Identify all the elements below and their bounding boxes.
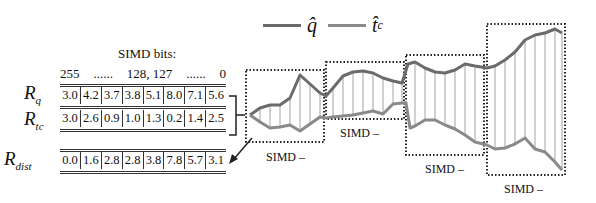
brace-icon — [229, 96, 245, 135]
simd-caption-4: SIMD – — [504, 182, 543, 197]
diagram-graphics — [0, 0, 596, 203]
simd-box-4 — [487, 24, 565, 175]
simd-caption-3: SIMD – — [425, 162, 464, 177]
simd-caption-2: SIMD – — [340, 126, 379, 141]
simd-box-1 — [246, 70, 324, 142]
simd-caption-1: SIMD – — [266, 150, 305, 165]
